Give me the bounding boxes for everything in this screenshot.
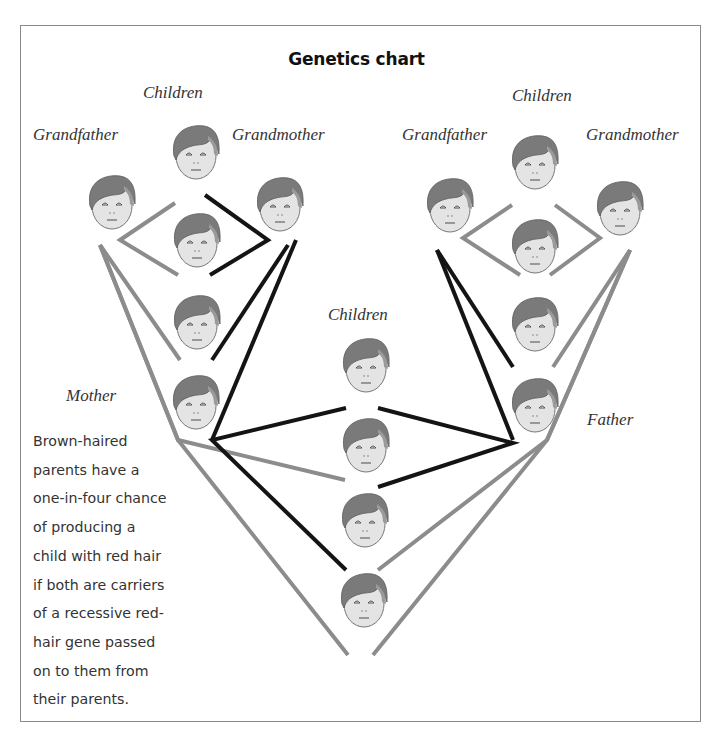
face-left-child-top (173, 126, 219, 179)
caption-line: child with red hair (33, 542, 203, 571)
face-left-child-2 (174, 214, 220, 267)
face-right-child-3 (512, 298, 558, 351)
label-left-children: Children (143, 83, 203, 103)
face-left-grandmother (257, 178, 303, 231)
face-father (512, 379, 558, 432)
caption-line: one-in-four chance (33, 484, 203, 513)
label-left-grandmother: Grandmother (232, 125, 325, 145)
face-right-grandmother (597, 182, 643, 235)
face-center-child-3 (342, 494, 388, 547)
face-left-child-3 (174, 296, 220, 349)
face-right-grandfather (427, 179, 473, 232)
caption-line: parents have a (33, 456, 203, 485)
face-left-grandfather (89, 176, 135, 229)
caption-line: on to them from (33, 657, 203, 686)
face-right-child-2 (512, 220, 558, 273)
right-family-lines (373, 205, 630, 655)
caption-line: hair gene passed (33, 628, 203, 657)
label-right-grandmother: Grandmother (586, 125, 679, 145)
face-right-child-top (512, 136, 558, 189)
caption-line: of a recessive red- (33, 599, 203, 628)
label-center-children: Children (328, 305, 388, 325)
center-children-faces (341, 339, 389, 627)
face-center-child-4 (341, 574, 387, 627)
label-mother: Mother (66, 386, 116, 406)
label-right-children: Children (512, 86, 572, 106)
face-mother (173, 376, 219, 429)
caption-line: of producing a (33, 513, 203, 542)
label-left-grandfather: Grandfather (33, 125, 118, 145)
face-center-child-2 (343, 419, 389, 472)
caption-text: Brown-haired parents have a one-in-four … (33, 427, 203, 714)
caption-line: their parents. (33, 685, 203, 714)
caption-line: if both are carriers (33, 571, 203, 600)
face-center-child-1 (343, 339, 389, 392)
label-father: Father (587, 410, 633, 430)
caption-line: Brown-haired (33, 427, 203, 456)
label-right-grandfather: Grandfather (402, 125, 487, 145)
